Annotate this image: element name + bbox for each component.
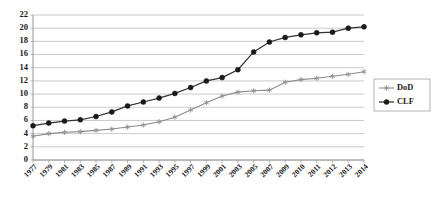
y-tick-label: 4	[24, 128, 29, 138]
x-tick-marks	[33, 160, 364, 163]
data-point	[283, 35, 288, 40]
chart-legend: DoDCLF	[374, 79, 430, 111]
y-tick-label: 12	[20, 75, 29, 85]
y-tick-label: 22	[20, 9, 29, 19]
x-tick-label: 2010	[290, 162, 307, 179]
y-tick-label: 8	[24, 101, 28, 111]
x-tick-label: 2014	[353, 162, 370, 179]
x-tick-label: 1993	[148, 162, 165, 179]
x-tick-label: 1979	[38, 162, 55, 179]
x-tick-label: 2003	[227, 162, 244, 179]
x-tick-label: 1977	[22, 162, 39, 179]
series-clf	[31, 24, 367, 128]
data-point	[314, 30, 319, 35]
data-point	[235, 67, 240, 72]
data-point	[46, 121, 51, 126]
y-tick-label: 0	[24, 154, 28, 164]
x-tick-label: 1987	[101, 162, 118, 179]
data-point	[204, 100, 209, 105]
x-tick-label: 1995	[164, 162, 181, 179]
legend-item-label: CLF	[397, 97, 414, 106]
x-tick-label: 2005	[242, 162, 259, 179]
data-point	[346, 26, 351, 31]
data-point	[157, 96, 162, 101]
x-tick-label: 1997	[179, 162, 196, 179]
data-point	[188, 85, 193, 90]
x-tick-label: 1991	[132, 162, 149, 179]
y-tick-label: 14	[20, 62, 29, 72]
x-tick-label: 1989	[116, 162, 133, 179]
data-point	[220, 75, 225, 80]
data-point	[267, 40, 272, 45]
x-tick-label: 2009	[274, 162, 291, 179]
x-tick-label: 2007	[258, 162, 275, 179]
legend-swatch-marker	[384, 100, 389, 105]
y-tick-label: 10	[20, 88, 29, 98]
x-tick-labels: 1977197919811983198519871989199119931995…	[22, 162, 370, 179]
data-point	[251, 49, 256, 54]
data-point	[109, 109, 114, 114]
x-tick-label: 2011	[306, 162, 323, 179]
data-point	[362, 24, 367, 29]
legend-item-label: DoD	[397, 83, 413, 92]
data-point	[31, 123, 36, 128]
y-tick-label: 2	[24, 141, 28, 151]
y-tick-label: 20	[20, 22, 29, 32]
x-tick-label: 2013	[337, 162, 354, 179]
x-tick-label: 2001	[211, 162, 228, 179]
data-point	[141, 100, 146, 105]
chart-canvas: 0246810121416182022 19771979198119831985…	[0, 0, 441, 200]
x-tick-label: 2012	[321, 162, 338, 179]
y-tick-label: 16	[20, 48, 29, 58]
data-point	[94, 114, 99, 119]
line-chart: 0246810121416182022 19771979198119831985…	[0, 0, 441, 200]
y-tick-label: 6	[24, 114, 28, 124]
data-point	[172, 91, 177, 96]
series-dod	[31, 69, 367, 139]
data-point	[62, 119, 67, 124]
data-point	[298, 32, 303, 37]
y-tick-labels: 0246810121416182022	[20, 9, 34, 164]
y-tick-label: 18	[20, 35, 29, 45]
x-tick-label: 1981	[53, 162, 70, 179]
x-tick-label: 1983	[69, 162, 86, 179]
data-point	[125, 103, 130, 108]
data-point	[330, 30, 335, 35]
x-tick-label: 1999	[195, 162, 212, 179]
x-tick-label: 1985	[85, 162, 102, 179]
data-point	[204, 78, 209, 83]
data-point	[78, 117, 83, 122]
grid-lines	[33, 15, 364, 160]
series-line	[33, 72, 364, 137]
data-point	[188, 107, 193, 112]
